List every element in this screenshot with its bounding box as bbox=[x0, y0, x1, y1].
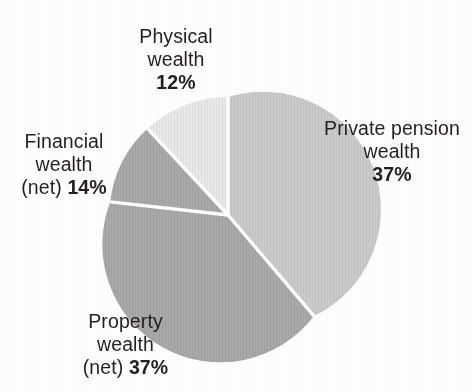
slice-value-physical-wealth: 12% bbox=[156, 71, 195, 93]
slice-label-pension-line2: wealth bbox=[313, 140, 471, 163]
slice-label-physical-wealth: Physical wealth 12% bbox=[111, 25, 241, 94]
slice-value-financial-wealth: 14% bbox=[67, 176, 106, 198]
slice-label-financial-net: (net) bbox=[21, 176, 67, 198]
slice-label-property-line2: wealth bbox=[53, 333, 198, 356]
slice-value-property-wealth: 37% bbox=[129, 356, 168, 378]
slice-label-financial-line1: Financial bbox=[2, 130, 126, 153]
slice-label-financial-wealth: Financial wealth (net) 14% bbox=[2, 130, 126, 199]
slice-label-property-wealth: Property wealth (net) 37% bbox=[53, 310, 198, 379]
slice-label-physical-line1: Physical bbox=[111, 25, 241, 48]
slice-label-property-net: (net) bbox=[83, 356, 129, 378]
slice-label-private-pension-wealth: Private pension wealth 37% bbox=[313, 117, 471, 186]
slice-value-private-pension-wealth: 37% bbox=[372, 163, 411, 185]
pie-chart-figure: Physical wealth 12% Private pension weal… bbox=[0, 0, 472, 392]
slice-label-financial-line2: wealth bbox=[2, 153, 126, 176]
slice-label-pension-line1: Private pension bbox=[313, 117, 471, 140]
slice-label-property-line1: Property bbox=[53, 310, 198, 333]
slice-label-physical-line2: wealth bbox=[111, 48, 241, 71]
